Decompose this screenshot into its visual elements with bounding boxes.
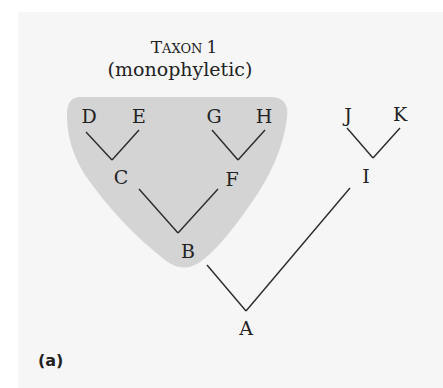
node-label-J: J: [342, 104, 352, 126]
taxon-subtitle: (monophyletic): [108, 58, 253, 80]
panel-label: (a): [38, 351, 63, 370]
taxon-1-shaded-region: [67, 97, 287, 268]
branch-A-I: [246, 188, 350, 311]
node-label-C: C: [114, 166, 129, 188]
node-label-I: I: [362, 165, 370, 187]
taxon-title: TAXON1: [151, 37, 218, 57]
node-label-D: D: [81, 105, 96, 127]
node-label-E: E: [132, 105, 146, 127]
node-label-F: F: [225, 168, 238, 190]
node-label-G: G: [206, 105, 221, 127]
node-label-K: K: [393, 103, 408, 125]
phylogenetic-tree-diagram: TAXON1 (monophyletic) D E G H J K C F I …: [0, 0, 443, 388]
branch-I-K: [373, 128, 400, 158]
branch-I-J: [347, 128, 373, 158]
node-label-H: H: [256, 105, 273, 127]
node-label-A: A: [238, 317, 253, 339]
branch-A-B: [207, 265, 246, 311]
node-label-B: B: [181, 240, 195, 262]
